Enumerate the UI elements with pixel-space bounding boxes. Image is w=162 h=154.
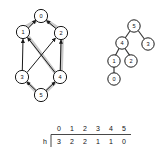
- edge-3-1: [22, 39, 23, 70]
- graph-node-5-label: 5: [39, 92, 42, 98]
- graph-node-0[interactable]: 0: [34, 9, 47, 22]
- figure-root: 0 1 2 3 4: [0, 0, 162, 154]
- tree-node-2[interactable]: 2: [125, 55, 137, 67]
- table-value-5: 0: [122, 138, 126, 145]
- tree-edge-4-1: [116, 49, 120, 56]
- table-value-2: 2: [83, 138, 87, 145]
- tree-node-1-label: 1: [112, 58, 115, 64]
- tree-node-3[interactable]: 3: [142, 38, 154, 50]
- table-value-1: 2: [70, 138, 74, 145]
- table-value-4: 1: [109, 138, 113, 145]
- graph-node-1-label: 1: [21, 29, 24, 35]
- graph-node-3[interactable]: 3: [15, 70, 28, 83]
- graph-node-2[interactable]: 2: [54, 26, 67, 39]
- tree-edge-5-3: [139, 31, 145, 39]
- tree-node-layer: 5 4 3 1 2: [108, 20, 154, 85]
- graph-node-0-label: 0: [39, 13, 42, 19]
- edge-4-2: [60, 40, 61, 71]
- table-header-0: 0: [57, 125, 61, 132]
- edge-5-3: [27, 82, 37, 91]
- graph-node-5[interactable]: 5: [34, 88, 47, 101]
- edge-5-4: [46, 82, 56, 91]
- height-tree: 5 4 3 1 2: [108, 20, 154, 85]
- graph-node-3-label: 3: [20, 74, 23, 80]
- table-header-2: 2: [83, 125, 87, 132]
- table-header-4: 4: [109, 125, 113, 132]
- tree-node-2-label: 2: [129, 58, 132, 64]
- tree-edge-4-2: [125, 49, 130, 56]
- graph-node-1[interactable]: 1: [16, 25, 29, 38]
- graph-node-4[interactable]: 4: [53, 70, 66, 83]
- tree-node-0-label: 0: [112, 76, 115, 82]
- tree-node-1[interactable]: 1: [108, 55, 120, 67]
- tree-edge-5-4: [126, 31, 131, 38]
- height-table: 0 1 2 3 4 5 h 3 2 2 1 1 0: [43, 125, 131, 147]
- figure-canvas: 0 1 2 3 4: [0, 0, 162, 154]
- table-value-3: 1: [96, 138, 100, 145]
- tree-node-0[interactable]: 0: [108, 73, 120, 85]
- tree-node-4[interactable]: 4: [116, 37, 128, 49]
- tree-node-4-label: 4: [120, 40, 123, 46]
- graph-node-4-label: 4: [58, 74, 61, 80]
- table-header-1: 1: [70, 125, 74, 132]
- table-header-5: 5: [122, 125, 126, 132]
- directed-graph: 0 1 2 3 4: [15, 9, 67, 101]
- tree-node-5[interactable]: 5: [128, 20, 140, 32]
- tree-node-5-label: 5: [132, 23, 135, 29]
- table-header-3: 3: [96, 125, 100, 132]
- table-row-label: h: [43, 138, 47, 145]
- tree-node-3-label: 3: [146, 41, 149, 47]
- graph-node-2-label: 2: [59, 30, 62, 36]
- table-value-0: 3: [57, 138, 61, 145]
